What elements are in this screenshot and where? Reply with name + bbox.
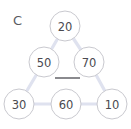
diagram-panel: 205070306010 C (0, 0, 131, 129)
node-layer: 205070306010 (4, 11, 127, 119)
node-label: 30 (12, 98, 27, 112)
graph-node[interactable]: 60 (51, 89, 81, 119)
node-label: 20 (58, 20, 73, 34)
graph-node[interactable]: 20 (50, 11, 80, 41)
graph-node[interactable]: 30 (4, 89, 34, 119)
graph-diagram: 205070306010 C (0, 0, 131, 129)
node-label: 50 (37, 56, 52, 70)
graph-node[interactable]: 10 (97, 89, 127, 119)
node-label: 60 (59, 98, 74, 112)
graph-node[interactable]: 70 (74, 47, 104, 77)
graph-node[interactable]: 50 (29, 47, 59, 77)
node-label: 10 (105, 98, 120, 112)
panel-label: C (13, 13, 22, 28)
node-label: 70 (82, 56, 97, 70)
